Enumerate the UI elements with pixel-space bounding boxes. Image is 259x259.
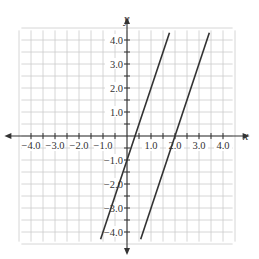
y-tick-label: 1.0 [110,107,123,118]
x-tick-label: −4.0 [21,140,40,151]
y-tick-label: 4.0 [110,35,123,46]
axes [4,17,249,255]
coordinate-plane: −4.0−3.0−2.0−1.01.02.03.04.04.03.02.01.0… [0,0,259,259]
y-tick-label: 3.0 [110,59,123,70]
y-tick-label: −4.0 [104,227,123,238]
chart: −4.0−3.0−2.0−1.01.02.03.04.04.03.02.01.0… [0,0,259,259]
x-axis-label: x [242,129,249,143]
y-tick-label: −1.0 [104,155,123,166]
x-tick-label: −1.0 [93,140,112,151]
x-axis-arrow-left-icon [4,133,11,139]
y-tick-label: 2.0 [110,83,123,94]
x-tick-label: −2.0 [69,140,88,151]
y-axis-arrow-down-icon [124,248,130,255]
y-tick-label: −3.0 [104,203,123,214]
y-axis-label: y [123,12,130,26]
x-tick-label: 1.0 [144,140,157,151]
x-tick-label: 4.0 [216,140,229,151]
x-tick-label: −3.0 [45,140,64,151]
x-tick-label: 3.0 [192,140,205,151]
